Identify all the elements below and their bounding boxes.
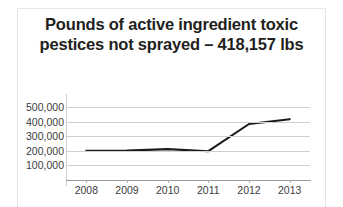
gridline [66,151,310,152]
x-axis-tick-label: 2008 [66,184,106,196]
x-axis-tick-mark [127,180,128,183]
y-axis-tick-label: 400,000 [20,117,64,127]
chart-title-line-1: Pounds of active ingredient toxic [20,14,323,34]
x-axis-tick-mark [168,180,169,183]
x-axis-tick-label: 2013 [270,184,310,196]
gridline [66,165,310,166]
chart-card: Pounds of active ingredient toxic pestic… [0,0,343,207]
series-line [66,100,310,180]
chart-title-line-2: pestices not sprayed – 418,157 lbs [20,34,323,54]
x-axis-tick-label: 2010 [148,184,188,196]
plot-area [66,100,310,180]
card-border-right [325,8,326,207]
x-axis-tick-mark [208,180,209,183]
y-axis-tick-label: 300,000 [20,131,64,141]
x-axis-tick-label: 2009 [107,184,147,196]
y-axis-tick-label: 200,000 [20,146,64,156]
x-axis-tick-mark [290,180,291,183]
y-axis-tick-label: 500,000 [20,102,64,112]
x-axis-tick-mark [86,180,87,183]
chart-title: Pounds of active ingredient toxic pestic… [20,14,323,54]
x-axis-line [66,180,311,181]
card-border-top [17,8,326,9]
gridline [66,136,310,137]
x-axis-tick-mark [249,180,250,183]
y-axis-tick-labels: 100,000200,000300,000400,000500,000 [18,100,64,180]
x-axis-tick-label: 2012 [229,184,269,196]
y-axis-tick-label: 100,000 [20,160,64,170]
line-chart: 100,000200,000300,000400,000500,000 2008… [18,88,325,207]
gridline [66,107,310,108]
gridline [66,122,310,123]
x-axis-tick-label: 2011 [188,184,228,196]
